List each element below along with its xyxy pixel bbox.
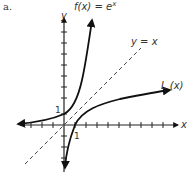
exp-curve-label: f(x) = ex — [74, 0, 116, 12]
x-axis-label: x — [181, 119, 187, 130]
figure-label: a. — [3, 1, 12, 12]
y-tick-label-1: 1 — [55, 105, 61, 115]
y-axis-label: y — [61, 10, 67, 21]
identity-line-label: y = x — [131, 36, 158, 47]
log-curve-label: L (x) — [161, 80, 183, 91]
exp-curve-label-text: f(x) = e — [74, 1, 112, 12]
x-tick-label-1: 1 — [74, 131, 80, 141]
exp-curve-superscript: x — [112, 0, 116, 8]
